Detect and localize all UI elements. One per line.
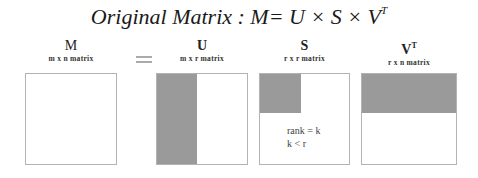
matrix-vt-name: V (401, 42, 411, 57)
title-superscript: T (381, 4, 387, 16)
matrix-m-header: M m x n matrix (25, 38, 117, 63)
matrix-s-header: S r x r matrix (259, 38, 350, 63)
matrix-u-label: U (156, 38, 248, 53)
matrix-vt-header: VT r x n matrix (361, 38, 457, 67)
matrix-u-shaded-columns (157, 74, 197, 164)
rank-annotation: rank = k k < r (287, 124, 320, 150)
matrix-m-dims: m x n matrix (25, 54, 117, 63)
matrix-s-box: rank = k k < r (259, 73, 350, 165)
matrix-vt-superscript: T (411, 41, 416, 50)
rank-line: rank = k (287, 124, 320, 137)
matrix-m-label: M (25, 38, 117, 53)
matrix-m-box (25, 73, 117, 165)
matrix-vt-shaded-rows (362, 74, 456, 113)
matrix-u-dims: m x r matrix (156, 54, 248, 63)
diagram-title: Original Matrix : M= U × S × VT (0, 4, 478, 30)
matrix-vt-dims: r x n matrix (361, 58, 457, 67)
equals-bar-bottom (136, 61, 152, 63)
matrix-s-dims: r x r matrix (259, 54, 350, 63)
matrix-s-shaded-block (260, 74, 301, 113)
matrix-vt-label: VT (361, 38, 457, 57)
matrix-s-label: S (259, 38, 350, 53)
rank-constraint-line: k < r (287, 137, 320, 150)
matrix-u-header: U m x r matrix (156, 38, 248, 63)
equals-bar-top (136, 56, 152, 58)
title-equation: Original Matrix : M= U × S × V (91, 4, 381, 29)
matrix-u-box (156, 73, 248, 165)
matrix-vt-box (361, 73, 457, 165)
